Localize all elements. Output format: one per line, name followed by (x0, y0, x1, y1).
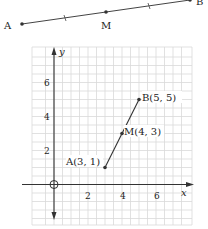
point-a-plot (103, 166, 107, 170)
coordinate-grid (32, 47, 192, 225)
label-a: A (3, 20, 12, 31)
y-tick-4: 4 (44, 112, 50, 122)
x-tick-2: 2 (85, 191, 91, 201)
label-m: M (101, 20, 111, 31)
point-m (104, 10, 108, 14)
label-b: B (196, 0, 203, 7)
top-segment-diagram: A M B (3, 0, 203, 31)
point-b-label: B(5, 5) (142, 92, 176, 103)
figure: A M B (0, 0, 208, 229)
x-axis-arrow-icon (186, 182, 194, 187)
point-m-label: M(4, 3) (124, 126, 161, 137)
y-axis-arrow-icon (52, 47, 57, 55)
y-tick-2: 2 (44, 146, 50, 156)
x-tick-4: 4 (120, 191, 126, 201)
point-b-plot (137, 98, 141, 102)
point-b (188, 0, 192, 2)
point-a (20, 22, 24, 26)
y-tick-6: 6 (44, 78, 50, 88)
y-axis-label: y (58, 46, 65, 57)
x-axis-label: x (181, 187, 187, 198)
point-a-label: A(3, 1) (65, 156, 100, 167)
x-tick-6: 6 (154, 191, 160, 201)
